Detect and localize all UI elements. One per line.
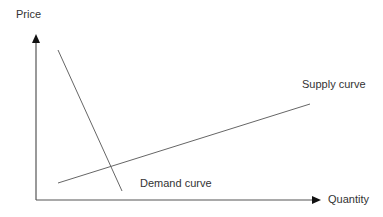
demand-curve-label: Demand curve [140,177,212,189]
supply-curve-label: Supply curve [302,78,366,90]
y-axis-label: Price [16,8,41,20]
demand-curve [58,50,122,191]
x-axis-arrow-icon [312,196,321,204]
x-axis-label: Quantity [328,193,369,205]
y-axis-arrow-icon [32,34,40,43]
supply-curve [58,104,310,183]
